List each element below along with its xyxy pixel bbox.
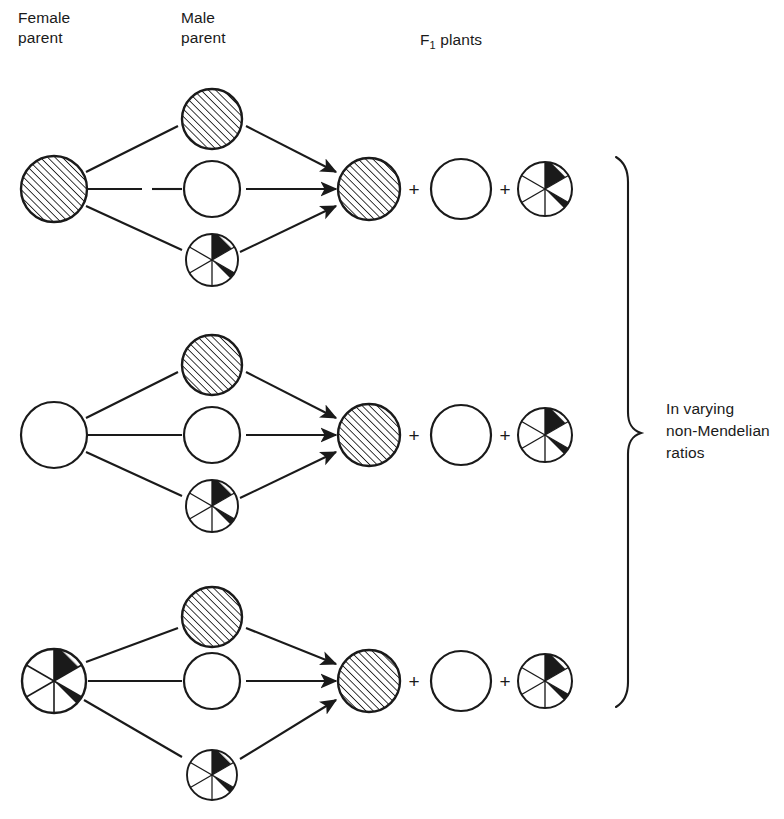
female-parent-circle-row-2 bbox=[21, 402, 87, 468]
grouping-brace bbox=[616, 157, 641, 707]
male-parent-circle-white-row-1 bbox=[184, 161, 240, 217]
male-parent-circle-white-row-3 bbox=[184, 653, 240, 709]
link-female-to-male-bottom bbox=[86, 206, 182, 250]
cross-row-2: + + bbox=[21, 335, 572, 532]
link-female-to-male-bottom bbox=[86, 452, 182, 496]
male-parent-circle-sectored-row-2 bbox=[186, 480, 238, 532]
female-parent-circle-row-3 bbox=[22, 649, 86, 713]
f1-offspring-circle-white-row-2 bbox=[431, 405, 491, 465]
f1-offspring-circle-white-row-3 bbox=[431, 651, 491, 711]
inheritance-cross-diagram: + + + + + + bbox=[0, 0, 784, 819]
f1-offspring-circle-sectored-row-1 bbox=[518, 162, 572, 216]
cross-row-3: + + bbox=[22, 587, 572, 800]
male-parent-circle-sectored-row-3 bbox=[187, 750, 237, 800]
plus-sign-3: + bbox=[408, 425, 419, 446]
f1-offspring-circle-hatched-row-2 bbox=[338, 404, 400, 466]
arrow-male-top-to-f1 bbox=[246, 372, 336, 418]
arrow-male-bottom-to-f1 bbox=[240, 700, 336, 759]
male-parent-circle-hatched-row-2 bbox=[182, 335, 242, 395]
f1-offspring-circle-hatched-row-1 bbox=[338, 158, 400, 220]
plus-sign-4: + bbox=[499, 425, 510, 446]
f1-offspring-circle-sectored-row-2 bbox=[518, 408, 572, 462]
arrow-male-top-to-f1 bbox=[246, 126, 336, 172]
plus-sign-1: + bbox=[408, 179, 419, 200]
link-female-to-male-bottom bbox=[84, 700, 182, 757]
arrow-male-bottom-to-f1 bbox=[240, 206, 336, 252]
f1-offspring-circle-sectored-row-3 bbox=[518, 654, 572, 708]
female-parent-circle-row-1 bbox=[21, 156, 87, 222]
arrow-male-top-to-f1 bbox=[246, 628, 336, 664]
cross-row-1: + + bbox=[21, 89, 572, 286]
link-female-to-male-top bbox=[86, 126, 178, 172]
male-parent-circle-white-row-2 bbox=[184, 407, 240, 463]
f1-offspring-circle-white-row-1 bbox=[431, 159, 491, 219]
plus-sign-2: + bbox=[499, 179, 510, 200]
link-female-to-male-top bbox=[86, 628, 178, 662]
f1-offspring-circle-hatched-row-3 bbox=[338, 650, 400, 712]
male-parent-circle-sectored-row-1 bbox=[186, 234, 238, 286]
diagram-page: Female parent Male parent F1 plants In v… bbox=[0, 0, 784, 819]
link-female-to-male-top bbox=[86, 372, 178, 418]
arrow-male-bottom-to-f1 bbox=[240, 452, 336, 498]
plus-sign-5: + bbox=[408, 671, 419, 692]
plus-sign-6: + bbox=[499, 671, 510, 692]
male-parent-circle-hatched-row-3 bbox=[182, 587, 242, 647]
male-parent-circle-hatched-row-1 bbox=[182, 89, 242, 149]
